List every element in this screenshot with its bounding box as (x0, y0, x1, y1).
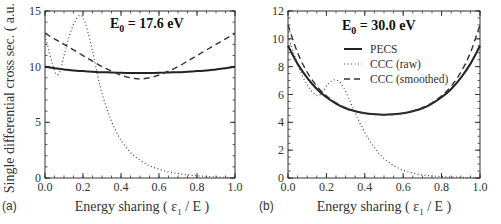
x-axis-title: Energy sharing ( ε1 / E ) (75, 199, 210, 217)
x-tick-label: 0.2 (76, 180, 91, 194)
series-dashed (45, 33, 235, 79)
y-ticks: 051015 (29, 4, 235, 185)
x-tick-label: 1.0 (228, 180, 243, 194)
x-tick-label: 0.4 (357, 180, 372, 194)
panel-b-chart: 024681012 0.00.20.40.60.81.0 E0 = 30.0 e… (259, 4, 488, 217)
x-tick-label: 0.6 (396, 180, 411, 194)
y-tick-label: 8 (278, 60, 284, 74)
panel-label: (a) (2, 199, 17, 213)
series-solid (45, 67, 235, 73)
energy-label: E0 = 30.0 eV (342, 18, 416, 36)
series-dotted (45, 15, 235, 178)
legend: PECS CCC (raw) CCC (smoothed) (344, 43, 448, 86)
legend-label: CCC (smoothed) (370, 73, 448, 86)
y-tick-label: 5 (35, 115, 41, 129)
legend-label: PECS (370, 43, 398, 55)
y-tick-label: 15 (29, 4, 41, 18)
y-tick-label: 2 (278, 143, 284, 157)
legend-label: CCC (raw) (370, 58, 421, 71)
panel-label: (b) (259, 199, 274, 213)
x-tick-label: 0.8 (190, 180, 205, 194)
plot-frame (288, 11, 480, 178)
energy-label: E0 = 17.6 eV (110, 16, 184, 34)
x-axis-title: Energy sharing ( ε1 / E ) (317, 199, 452, 217)
y-tick-label: 6 (278, 88, 284, 102)
panel-a-chart: Single differential cross sec. ( a.u. ) … (2, 0, 243, 217)
y-tick-label: 12 (272, 4, 284, 18)
y-tick-label: 10 (272, 32, 284, 46)
x-tick-label: 0.0 (38, 180, 53, 194)
x-ticks: 0.00.20.40.60.81.0 (38, 11, 243, 194)
y-tick-label: 4 (278, 115, 284, 129)
x-tick-label: 0.2 (319, 180, 334, 194)
x-ticks: 0.00.20.40.60.81.0 (281, 11, 488, 194)
figure: Single differential cross sec. ( a.u. ) … (0, 0, 501, 224)
x-tick-label: 0.0 (281, 180, 296, 194)
y-axis-title: Single differential cross sec. ( a.u. ) (2, 0, 18, 193)
x-tick-label: 0.6 (152, 180, 167, 194)
x-tick-label: 0.4 (114, 180, 129, 194)
y-tick-label: 10 (29, 60, 41, 74)
plot-frame (45, 11, 235, 178)
curves (45, 15, 235, 178)
x-tick-label: 0.8 (434, 180, 449, 194)
x-tick-label: 1.0 (473, 180, 488, 194)
